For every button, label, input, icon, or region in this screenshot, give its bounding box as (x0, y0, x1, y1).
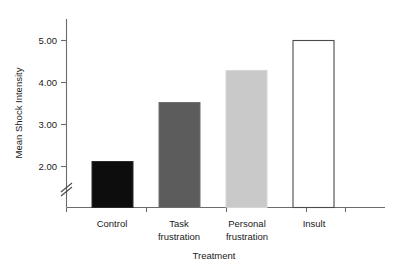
bar-series (92, 41, 334, 208)
y-axis-tick-labels: 5.00 4.00 3.00 2.00 (39, 35, 58, 172)
y-tick-label-5: 5.00 (39, 35, 58, 46)
category-label-control: Control (97, 218, 128, 229)
y-tick-label-3: 3.00 (39, 119, 58, 130)
category-label-task-line2: frustration (158, 231, 200, 242)
category-label-personal-line2: frustration (226, 231, 268, 242)
y-tick-label-4: 4.00 (39, 77, 58, 88)
y-axis-ticks (61, 41, 67, 167)
category-label-task-line1: Task (169, 218, 189, 229)
category-label-personal-line1: Personal (228, 218, 266, 229)
y-axis-title: Mean Shock Intensity (13, 67, 24, 158)
bar-personal-frustration (226, 71, 267, 208)
bar-chart: 5.00 4.00 3.00 2.00 Control (0, 0, 396, 265)
category-label-insult: Insult (303, 218, 326, 229)
x-axis-ticks (67, 208, 346, 213)
x-axis-title: Treatment (193, 250, 236, 261)
y-tick-label-2: 2.00 (39, 161, 58, 172)
bar-insult (293, 41, 334, 208)
chart-canvas: 5.00 4.00 3.00 2.00 Control (0, 0, 396, 265)
bar-task-frustration (159, 103, 200, 208)
x-axis-category-labels: Control Task frustration Personal frustr… (97, 218, 326, 242)
bar-control (92, 162, 133, 208)
